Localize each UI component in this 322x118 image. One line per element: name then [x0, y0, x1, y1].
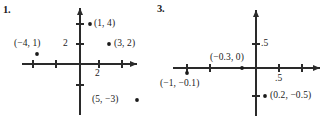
point-label-neg1-neg0point1: (−1, −0.1)	[160, 79, 199, 89]
point-label-1-4: (1, 4)	[94, 19, 115, 29]
data-point	[135, 98, 139, 102]
point-label-5-neg3: (5, −3)	[92, 95, 119, 105]
point-label-neg0point3-0: (−0.3, 0)	[210, 53, 244, 63]
x-tick-label-2: 2	[95, 69, 100, 79]
data-point	[240, 66, 244, 70]
figure-sheet: 1.	[0, 0, 322, 118]
x-axis-arrow	[130, 61, 137, 67]
point-label-3-2: (3, 2)	[114, 39, 135, 49]
point-label-0point2-neg0point5: (0.2, −0.5)	[270, 91, 311, 101]
x-tick-label-point5: .5	[275, 74, 282, 84]
y-axis-arrow	[77, 8, 83, 15]
x-axis-arrow	[313, 65, 320, 71]
data-point	[263, 94, 267, 98]
data-point	[35, 52, 39, 56]
problem-1-figure: 1.	[0, 0, 160, 118]
data-point	[185, 71, 189, 75]
data-point	[88, 22, 92, 26]
y-tick-label-2: 2	[63, 39, 68, 49]
data-point	[107, 42, 111, 46]
y-tick-label-point5: .5	[261, 39, 268, 49]
point-label-neg4-1: (−4, 1)	[14, 39, 41, 49]
problem-1-plot	[0, 0, 160, 118]
y-axis-arrow	[253, 10, 259, 17]
problem-3-figure: 3.	[160, 0, 322, 118]
